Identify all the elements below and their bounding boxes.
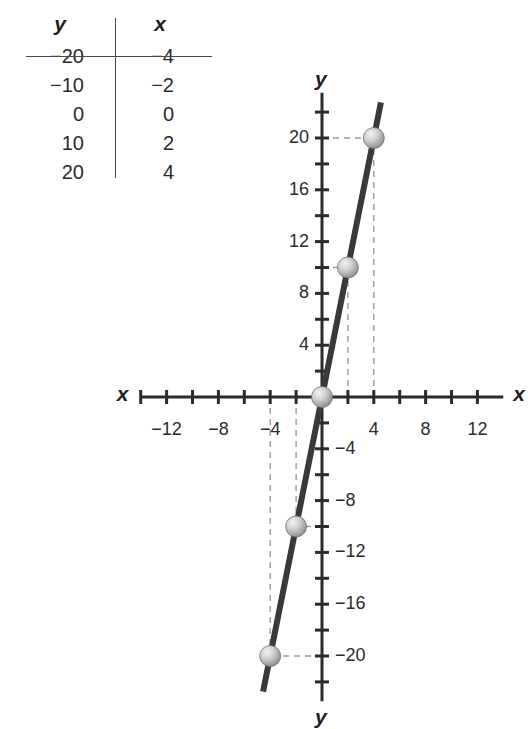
y-tick-label: −20	[335, 645, 366, 666]
data-point-marker	[312, 387, 333, 408]
y-tick-label: −8	[335, 490, 356, 511]
x-tick-label: −4	[230, 419, 310, 440]
y-axis-label-top: y	[315, 67, 327, 91]
y-tick-label: −4	[335, 438, 356, 459]
data-point-marker	[260, 646, 281, 667]
y-tick-label: 12	[0, 231, 309, 252]
y-tick-label: 20	[0, 127, 309, 148]
x-axis-label-right: x	[513, 382, 525, 406]
y-tick-label: 4	[0, 334, 309, 355]
y-tick-label: −16	[335, 593, 366, 614]
y-axis-label-bottom: y	[315, 705, 327, 729]
y-tick-label: 8	[0, 282, 309, 303]
y-tick-label: 16	[0, 179, 309, 200]
data-point-marker	[286, 516, 307, 537]
data-point-marker	[337, 257, 358, 278]
y-tick-label: −12	[335, 541, 366, 562]
data-point-marker	[363, 128, 384, 149]
x-axis-label-left: x	[117, 382, 129, 406]
x-tick-label: 12	[437, 419, 517, 440]
